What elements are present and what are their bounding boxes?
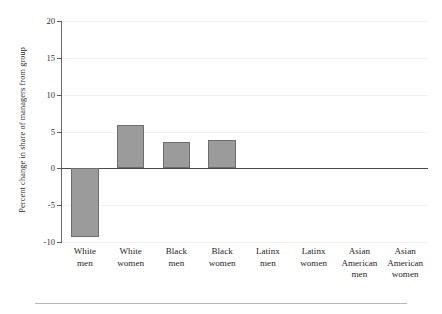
y-tick: [57, 242, 62, 243]
y-axis-title: Percent change in share of managers from…: [10, 0, 34, 260]
x-tick-label-line: men: [337, 269, 383, 281]
x-tick-label-line: Latinx: [256, 246, 280, 256]
y-tick-label: 5: [51, 127, 55, 137]
gridline: [62, 95, 428, 96]
x-tick-label: AsianAmericanwomen: [382, 246, 428, 294]
x-tick-label: Blackmen: [154, 246, 200, 294]
x-tick-label-line: Asian: [395, 246, 416, 256]
x-tick-label: Blackwomen: [199, 246, 245, 294]
gridline: [62, 205, 428, 206]
y-tick-label: -5: [48, 200, 55, 210]
x-tick-label-line: American: [382, 258, 428, 270]
x-tick-label: Latinxwomen: [291, 246, 337, 294]
y-axis-title-text: Percent change in share of managers from…: [18, 47, 27, 213]
x-tick-label-line: women: [108, 258, 154, 270]
x-tick-label: AsianAmericanmen: [337, 246, 383, 294]
x-tick-label: Latinxmen: [245, 246, 291, 294]
x-tick-label-line: Latinx: [302, 246, 326, 256]
y-tick-label: 15: [46, 53, 55, 63]
footer-divider: [35, 303, 407, 304]
zero-baseline: [61, 168, 428, 169]
y-tick: [57, 21, 62, 22]
y-tick-label: 20: [46, 16, 55, 26]
x-tick-label-line: White: [120, 246, 142, 256]
gridline: [62, 242, 428, 243]
x-tick-label-line: men: [154, 258, 200, 270]
y-tick: [57, 95, 62, 96]
bar: [163, 142, 190, 169]
x-tick-label-line: women: [199, 258, 245, 270]
x-tick-label: Whitemen: [62, 246, 108, 294]
x-tick-label-line: Black: [166, 246, 187, 256]
bar-chart-figure: Percent change in share of managers from…: [0, 0, 442, 314]
y-tick-label: 0: [51, 163, 55, 173]
y-tick: [57, 205, 62, 206]
x-tick-label-line: men: [245, 258, 291, 270]
bar: [117, 125, 144, 168]
bar: [71, 168, 98, 237]
y-tick-label: 10: [46, 90, 55, 100]
plot-area: 20151050-5-10: [62, 21, 428, 242]
x-tick-label-line: American: [337, 258, 383, 270]
y-tick: [57, 58, 62, 59]
x-tick-label-line: White: [74, 246, 96, 256]
bar: [208, 140, 235, 169]
x-tick-label-line: women: [382, 269, 428, 281]
x-tick-label-line: Asian: [349, 246, 370, 256]
gridline: [62, 58, 428, 59]
x-tick-label: Whitewomen: [108, 246, 154, 294]
y-tick-label: -10: [44, 237, 55, 247]
gridline: [62, 21, 428, 22]
y-tick: [57, 132, 62, 133]
x-tick-label-line: women: [291, 258, 337, 270]
x-tick-label-group: WhitemenWhitewomenBlackmenBlackwomenLati…: [62, 246, 428, 294]
x-tick-label-line: Black: [212, 246, 233, 256]
x-tick-label-line: men: [62, 258, 108, 270]
